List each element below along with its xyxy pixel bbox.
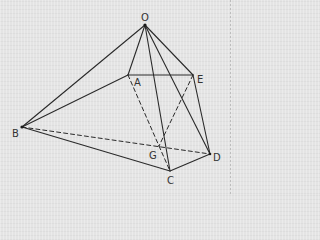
label-D: D — [213, 152, 221, 163]
vertex-D-dot — [209, 153, 212, 156]
vertex-O-dot — [143, 23, 146, 26]
label-C: C — [167, 175, 174, 186]
edge-C-D — [170, 154, 210, 171]
edge-A-G-dashed — [128, 75, 159, 146]
edge-B-D-dashed — [22, 127, 210, 154]
vertex-B-dot — [20, 125, 23, 128]
label-G: G — [149, 150, 157, 161]
edge-E-D — [193, 75, 210, 154]
dotted-right-border — [230, 0, 231, 194]
edge-B-C — [22, 127, 170, 171]
label-B: B — [12, 128, 19, 139]
label-A: A — [134, 77, 141, 88]
geometry-diagram: O A E B G C D — [0, 0, 231, 194]
edge-O-D — [145, 25, 210, 154]
label-O: O — [141, 12, 149, 23]
label-E: E — [197, 74, 203, 85]
